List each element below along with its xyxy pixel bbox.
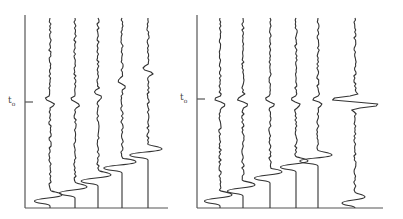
left-panel (25, 15, 168, 208)
seismogram-figure (0, 0, 403, 219)
seismic-trace (227, 18, 255, 208)
seismic-trace (104, 18, 136, 208)
seismic-trace (300, 18, 332, 208)
right-panel (197, 15, 383, 208)
seismic-trace (280, 18, 308, 208)
seismic-trace (130, 18, 162, 208)
seismic-trace (59, 18, 87, 208)
seismic-trace (81, 18, 111, 208)
right-t0-label: to (180, 92, 187, 104)
seismic-trace (333, 18, 378, 208)
seismic-trace (34, 18, 62, 208)
right-traces (204, 18, 377, 208)
left-traces (34, 18, 162, 208)
seismic-trace (254, 18, 282, 208)
left-t0-label: to (8, 95, 15, 107)
seismic-trace (204, 18, 232, 208)
